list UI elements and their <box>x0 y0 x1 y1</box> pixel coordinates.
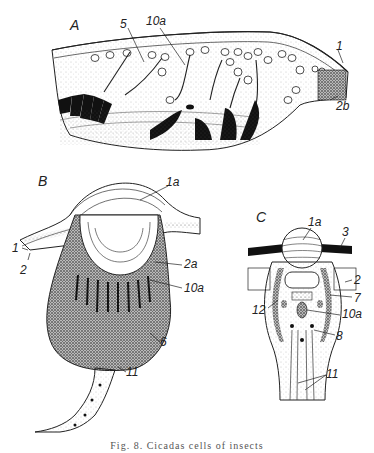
callout-a-5: 5 <box>120 17 127 31</box>
callout-c-2: 2 <box>353 273 361 287</box>
panel-c-label: C <box>256 209 267 225</box>
callout-c-7: 7 <box>354 291 362 305</box>
callout-b-11: 11 <box>126 365 138 379</box>
figure-caption: Fig. 8. Cicadas cells of insects <box>0 440 374 451</box>
callout-c-10a: 10a <box>342 307 362 321</box>
callout-c-12: 12 <box>252 303 266 317</box>
callout-b-2: 2 <box>19 263 27 277</box>
callout-a-1: 1 <box>336 39 343 53</box>
callout-c-8: 8 <box>336 329 343 343</box>
callout-c-1a: 1a <box>308 215 322 229</box>
callout-b-10a: 10a <box>184 281 204 295</box>
panel-a: A 5 10a 1 2b <box>52 14 350 150</box>
callout-b-1: 1 <box>12 241 19 255</box>
callout-b-2a: 2a <box>183 257 198 271</box>
panel-b: B 1a 1 2 2a 10a 6 11 <box>12 173 204 432</box>
callout-b-1a: 1a <box>166 175 180 189</box>
callout-a-10a: 10a <box>146 14 166 28</box>
callout-c-3: 3 <box>342 225 349 239</box>
figure-illustration: A 5 10a 1 2b <box>0 0 374 453</box>
panel-a-label: A <box>69 17 79 33</box>
panel-c: C 1a 3 2 7 12 10a 8 11 <box>248 209 362 400</box>
panel-b-label: B <box>38 173 47 189</box>
callout-c-11: 11 <box>326 367 338 381</box>
callout-b-6: 6 <box>160 335 167 349</box>
callout-a-2b: 2b <box>335 99 350 113</box>
